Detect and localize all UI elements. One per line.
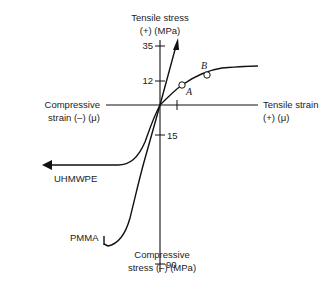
uhmwpe-arrowhead-icon xyxy=(42,160,52,170)
x-axis-left-label-2: strain (–) (μ) xyxy=(48,112,100,123)
pmma-curve xyxy=(104,46,176,246)
x-axis-right-label-2: (+) (μ) xyxy=(263,112,289,123)
uhmwpe-label: UHMWPE xyxy=(54,173,97,184)
tick-label-15: 15 xyxy=(167,130,178,141)
pmma-label: PMMA xyxy=(70,232,99,243)
y-axis-bottom-label-visible-1: Compressive xyxy=(134,249,189,260)
tick-label-35: 35 xyxy=(142,40,153,51)
point-a-label: A xyxy=(185,86,193,97)
point-b-label: B xyxy=(201,60,207,71)
y-axis-top-label-2: (+) (MPa) xyxy=(140,25,180,36)
pmma-arrowhead-icon xyxy=(173,38,179,50)
x-axis-right-label-1: Tensile strain xyxy=(263,99,318,110)
y-axis-top-label-1: Tensile stress xyxy=(131,12,189,23)
point-b xyxy=(204,72,210,78)
x-axis-left-label-1: Compressive xyxy=(45,99,100,110)
point-a xyxy=(179,82,185,88)
stress-strain-diagram: Tensile stress (+) (MPa) 35 12 15 90 A B… xyxy=(0,0,335,283)
y-axis-bottom-label-visible-2: stress (–) (MPa) xyxy=(128,262,196,273)
tick-label-12: 12 xyxy=(142,75,153,86)
